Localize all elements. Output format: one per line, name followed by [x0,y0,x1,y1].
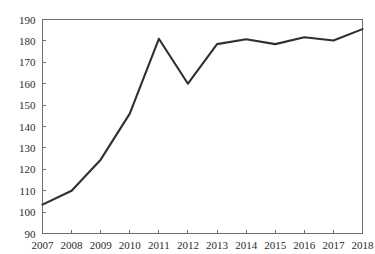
x-tick-label: 2016 [293,239,316,251]
y-tick-label: 120 [19,163,36,175]
y-tick-label: 170 [19,56,36,68]
y-axis-tick-marks [43,41,47,212]
x-tick-label: 2011 [148,239,170,251]
y-tick-label: 130 [19,142,36,154]
y-tick-label: 190 [19,14,36,26]
x-tick-label: 2007 [32,239,55,251]
y-axis-tick-labels: 90100110120130140150160170180190 [19,14,36,240]
x-axis-tick-labels: 2007200820092010201120122013201420152016… [32,239,375,251]
y-tick-label: 110 [19,185,36,197]
x-tick-label: 2017 [322,239,345,251]
x-tick-label: 2018 [352,239,375,251]
chart-canvas: 90100110120130140150160170180190 2007200… [0,0,375,254]
x-axis-tick-marks [72,230,334,234]
x-tick-label: 2015 [264,239,287,251]
x-tick-label: 2013 [206,239,229,251]
x-tick-label: 2008 [61,239,84,251]
y-tick-label: 180 [19,35,36,47]
y-tick-label: 140 [19,121,36,133]
line-chart: 90100110120130140150160170180190 2007200… [0,0,375,254]
x-tick-label: 2010 [119,239,142,251]
x-tick-label: 2012 [177,239,199,251]
y-tick-label: 160 [19,78,36,90]
y-tick-label: 100 [19,206,36,218]
plot-frame [43,20,363,234]
data-series-line [43,29,363,204]
x-tick-label: 2009 [90,239,113,251]
x-tick-label: 2014 [235,239,258,251]
y-tick-label: 150 [19,99,36,111]
